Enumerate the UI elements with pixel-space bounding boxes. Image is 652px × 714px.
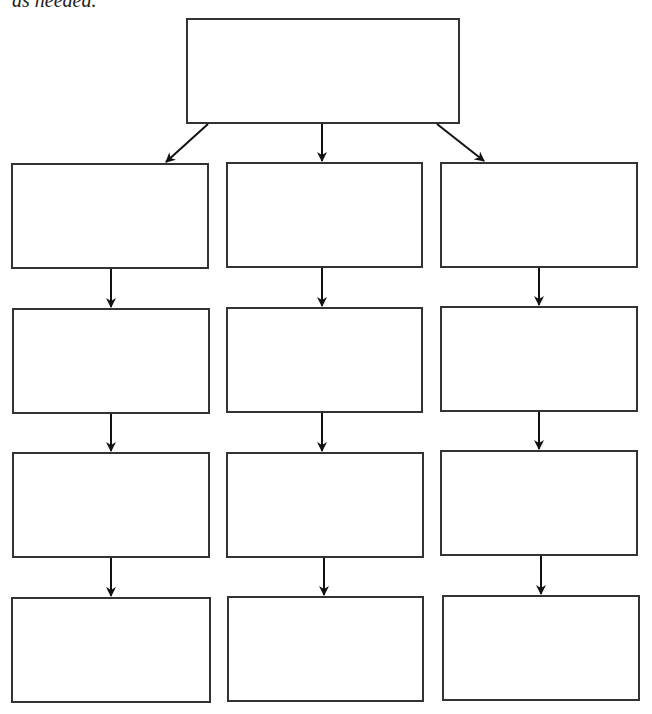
caption-text: as needed. xyxy=(12,0,96,12)
root-box xyxy=(186,18,460,124)
right-box-1 xyxy=(440,162,638,268)
right-box-3 xyxy=(440,450,638,556)
arrow-root-to-left-1 xyxy=(166,124,208,162)
right-box-2 xyxy=(440,306,638,412)
middle-box-3 xyxy=(226,452,424,558)
middle-box-4 xyxy=(227,596,424,702)
middle-box-2 xyxy=(226,307,423,413)
middle-box-1 xyxy=(226,162,423,268)
left-box-4 xyxy=(11,597,211,703)
arrow-root-to-right-1 xyxy=(437,124,484,161)
left-box-1 xyxy=(11,163,209,269)
left-box-3 xyxy=(12,452,210,558)
right-box-4 xyxy=(442,595,640,701)
left-box-2 xyxy=(12,308,210,414)
